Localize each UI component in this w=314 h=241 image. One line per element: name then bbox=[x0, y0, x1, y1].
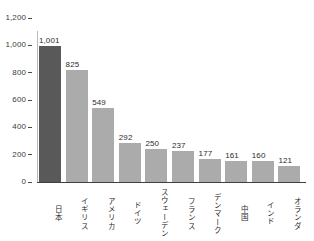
x-axis-category-label: スウェーデン bbox=[145, 186, 167, 240]
plot-area: 1,001825549292250237177161160121 bbox=[38, 18, 306, 183]
bar-group: 121 bbox=[278, 19, 300, 183]
x-axis-category-label: デンマーク bbox=[199, 186, 221, 240]
x-axis-category-text: イギリス bbox=[79, 197, 87, 230]
y-axis-tick-mark bbox=[28, 154, 32, 155]
bar-group: 237 bbox=[172, 19, 194, 183]
x-axis-category-text: インド bbox=[266, 201, 274, 226]
y-axis-tick: 1,200 bbox=[5, 13, 32, 23]
y-axis-tick-mark bbox=[28, 100, 32, 101]
bar-value-label: 292 bbox=[119, 133, 145, 142]
bar-group: 160 bbox=[252, 19, 274, 183]
x-axis-category-label: 中国 bbox=[225, 186, 247, 240]
y-axis-tick-label: 1,000 bbox=[5, 40, 26, 50]
bar-value-label: 250 bbox=[145, 139, 171, 148]
y-axis-tick-label: 800 bbox=[12, 68, 26, 78]
bar-group: 292 bbox=[119, 19, 141, 183]
bar bbox=[39, 46, 61, 183]
bar bbox=[278, 166, 300, 183]
bar-value-label: 177 bbox=[199, 149, 225, 158]
x-axis-category-label: 日本 bbox=[39, 186, 61, 240]
bar bbox=[172, 151, 194, 183]
bar bbox=[225, 161, 247, 183]
y-axis: 02004006008001,0001,200 bbox=[0, 0, 32, 241]
bar-value-label: 161 bbox=[225, 151, 251, 160]
y-axis-tick-mark bbox=[28, 72, 32, 73]
bar-group: 161 bbox=[225, 19, 247, 183]
y-axis-tick: 1,000 bbox=[5, 40, 32, 50]
bar-value-label: 121 bbox=[278, 156, 304, 165]
y-axis-tick: 800 bbox=[12, 68, 32, 78]
bar-value-label: 1,001 bbox=[39, 36, 65, 45]
y-axis-tick: 0 bbox=[21, 177, 32, 187]
bar-group: 250 bbox=[145, 19, 167, 183]
y-axis-tick-mark bbox=[28, 45, 32, 46]
x-axis-category-text: ドイツ bbox=[133, 201, 141, 226]
x-axis-category-text: デンマーク bbox=[212, 193, 220, 234]
y-axis-tick: 400 bbox=[12, 122, 32, 132]
x-axis-category-text: オランダ bbox=[292, 197, 300, 230]
x-axis: 日本イギリスアメリカドイツスウェーデンフランスデンマーク中国インドオランダ bbox=[38, 186, 306, 241]
x-axis-category-text: 日本 bbox=[53, 205, 61, 221]
bar bbox=[252, 161, 274, 183]
x-axis-category-label: フランス bbox=[172, 186, 194, 240]
y-axis-tick-label: 0 bbox=[21, 177, 26, 187]
x-axis-category-label: インド bbox=[252, 186, 274, 240]
y-axis-tick-label: 200 bbox=[12, 150, 26, 160]
bar-group: 177 bbox=[199, 19, 221, 183]
x-axis-category-text: フランス bbox=[186, 197, 194, 230]
y-axis-tick-label: 1,200 bbox=[5, 13, 26, 23]
y-axis-tick-mark bbox=[28, 18, 32, 19]
x-axis-category-label: イギリス bbox=[66, 186, 88, 240]
bar-value-label: 160 bbox=[252, 151, 278, 160]
y-axis-tick-mark bbox=[28, 127, 32, 128]
x-axis-category-label: アメリカ bbox=[92, 186, 114, 240]
bar bbox=[199, 159, 221, 183]
bar bbox=[145, 149, 167, 183]
bar-group: 549 bbox=[92, 19, 114, 183]
bar-chart: 02004006008001,0001,200 1,00182554929225… bbox=[0, 0, 314, 241]
bar-group: 1,001 bbox=[39, 19, 61, 183]
x-axis-category-label: オランダ bbox=[278, 186, 300, 240]
bar bbox=[119, 143, 141, 183]
x-axis-category-text: スウェーデン bbox=[159, 188, 167, 237]
bar-value-label: 237 bbox=[172, 141, 198, 150]
x-axis-category-text: アメリカ bbox=[106, 197, 114, 230]
bar-value-label: 825 bbox=[66, 60, 92, 69]
y-axis-tick: 200 bbox=[12, 150, 32, 160]
bar-value-label: 549 bbox=[92, 98, 118, 107]
bar-group: 825 bbox=[66, 19, 88, 183]
y-axis-tick-label: 600 bbox=[12, 95, 26, 105]
x-axis-category-label: ドイツ bbox=[119, 186, 141, 240]
x-axis-category-text: 中国 bbox=[239, 205, 247, 221]
bar bbox=[92, 108, 114, 183]
y-axis-tick-mark bbox=[28, 182, 32, 183]
y-axis-tick-label: 400 bbox=[12, 122, 26, 132]
x-axis-baseline bbox=[37, 182, 306, 183]
y-axis-tick: 600 bbox=[12, 95, 32, 105]
bar bbox=[66, 70, 88, 183]
